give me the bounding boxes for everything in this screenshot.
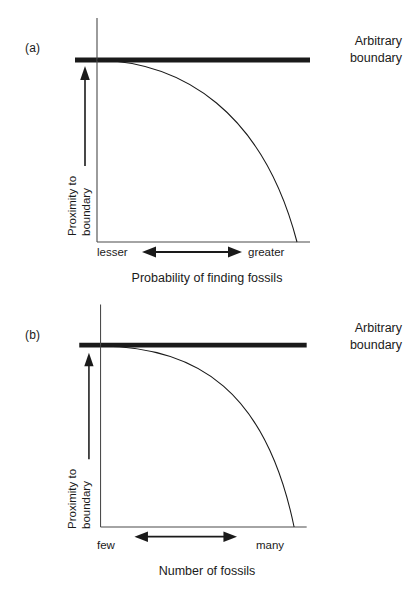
y-axis-label-line2: boundary [80, 188, 92, 236]
x-tick-label-left: lesser [97, 246, 128, 258]
data-curve-b [101, 346, 295, 527]
arbitrary-boundary-label-line1: Arbitrary [350, 320, 402, 337]
data-curve-a [97, 60, 297, 242]
x-direction-arrow-head-left [134, 531, 148, 541]
x-direction-arrow-head-left [142, 247, 156, 258]
proximity-arrow-head [84, 353, 93, 367]
arbitrary-boundary-label: Arbitrary boundary [350, 33, 402, 67]
x-axis-caption: Number of fossils [0, 564, 414, 578]
x-tick-label-right: many [256, 539, 284, 551]
x-tick-label-left: few [97, 539, 115, 551]
figure-canvas: (a) Arbitrary boundary Proximity to b [0, 0, 414, 597]
y-axis-label-line2: boundary [80, 481, 92, 529]
arbitrary-boundary-label: Arbitrary boundary [350, 320, 402, 354]
proximity-arrow-head [80, 66, 90, 80]
x-direction-arrow-head-right [228, 247, 242, 258]
arbitrary-boundary-label-line2: boundary [350, 50, 402, 67]
panel-a: (a) Arbitrary boundary Proximity to b [0, 0, 414, 300]
y-axis-label-line1: Proximity to [66, 176, 78, 236]
arbitrary-boundary-label-line1: Arbitrary [350, 33, 402, 50]
x-axis-caption: Probability of finding fossils [0, 271, 414, 285]
y-axis-label-line1: Proximity to [66, 469, 78, 529]
x-direction-arrow-head-right [223, 531, 237, 541]
panel-b: (b) Arbitrary boundary Proximity to b [0, 287, 414, 597]
arbitrary-boundary-label-line2: boundary [350, 337, 402, 354]
x-tick-label-right: greater [248, 246, 284, 258]
